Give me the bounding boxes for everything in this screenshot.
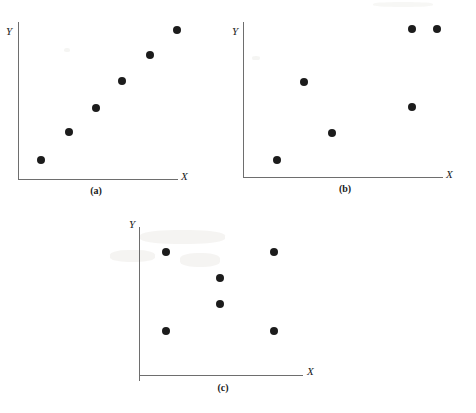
data-point [328, 129, 336, 137]
panel-b: Y X (b) [238, 0, 476, 206]
panel-c-y-axis-label: Y [129, 219, 135, 230]
data-point [408, 103, 416, 111]
data-point [433, 25, 441, 33]
panel-a-x-axis-label: X [181, 171, 188, 182]
data-point [37, 156, 45, 164]
panel-b-x-axis-label: X [446, 169, 453, 180]
panel-c-caption: (c) [205, 383, 241, 393]
data-point [65, 128, 73, 136]
data-point [270, 327, 278, 335]
paper-smudge [252, 56, 260, 60]
data-point [162, 327, 170, 335]
data-point [216, 274, 224, 282]
data-point [300, 78, 308, 86]
paper-smudge [64, 48, 70, 52]
data-point [408, 25, 416, 33]
panel-a-caption: (a) [78, 186, 114, 196]
panel-b-y-axis-label: Y [232, 26, 238, 37]
panel-a: Y X (a) [0, 0, 238, 206]
panel-b-x-axis [243, 177, 443, 178]
paper-smudge [110, 250, 155, 262]
paper-smudge [180, 253, 220, 267]
panel-a-x-axis [18, 179, 178, 180]
paper-smudge [373, 2, 433, 7]
data-point [173, 26, 181, 34]
panel-a-y-axis-label: Y [6, 26, 12, 37]
panel-b-y-axis [243, 22, 244, 178]
panel-c-x-axis [139, 375, 303, 376]
paper-smudge [140, 230, 225, 244]
scatterplot-figure: Y X (a) Y X (b) Y X (c) [0, 0, 476, 413]
data-point [146, 51, 154, 59]
panel-a-y-axis [18, 22, 19, 180]
panel-b-caption: (b) [327, 184, 363, 194]
data-point [118, 77, 126, 85]
panel-c: Y X (c) [110, 205, 360, 413]
panel-c-x-axis-label: X [307, 366, 314, 377]
data-point [92, 104, 100, 112]
data-point [270, 248, 278, 256]
data-point [216, 300, 224, 308]
data-point [273, 156, 281, 164]
data-point [162, 248, 170, 256]
panel-c-y-axis [139, 227, 140, 381]
